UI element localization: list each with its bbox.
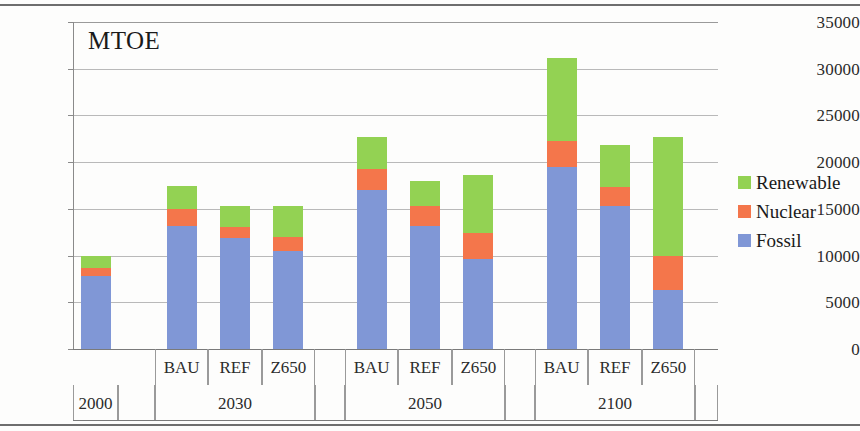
bar-segment-fossil	[600, 206, 630, 349]
bar-segment-fossil	[357, 190, 387, 349]
bar-segment-fossil	[547, 167, 577, 349]
plot-unit-title: MTOE	[88, 28, 160, 54]
bar-segment-fossil	[653, 290, 683, 349]
chart-legend: RenewableNuclearFossil	[738, 168, 840, 255]
category-year-2030: 2030	[155, 385, 315, 421]
bar-segment-renewable	[273, 206, 303, 237]
category-year-spacer	[695, 385, 718, 421]
bar-segment-fossil	[167, 226, 197, 349]
bar-segment-nuclear	[410, 206, 440, 226]
bar-segment-nuclear	[220, 227, 250, 238]
bar-segment-renewable	[600, 145, 630, 187]
y-tick-label-25000: 25000	[798, 107, 860, 124]
bar-segment-nuclear	[167, 209, 197, 226]
legend-item-renewable: Renewable	[738, 168, 840, 197]
bar-segment-fossil	[410, 226, 440, 349]
bar-2100-BAU	[547, 58, 577, 349]
bar-segment-fossil	[463, 259, 493, 349]
bar-2100-Z650	[653, 137, 683, 349]
category-year-spacer	[505, 385, 535, 421]
legend-item-nuclear: Nuclear	[738, 197, 840, 226]
bar-segment-nuclear	[600, 187, 630, 206]
energy-mix-stacked-bar-chart: 35000300002500020000150001000050000 MTOE…	[0, 0, 860, 431]
y-axis-line	[73, 22, 74, 349]
category-table-bottom-border	[73, 420, 718, 421]
bar-segment-nuclear	[463, 233, 493, 259]
category-scenario-2030-REF: REF	[208, 349, 261, 385]
legend-label: Renewable	[756, 173, 840, 192]
category-scenario-2050-Z650: Z650	[452, 349, 505, 385]
bar-2050-Z650	[463, 175, 493, 349]
category-scenario-2030-BAU: BAU	[155, 349, 208, 385]
y-tick-label-5000: 5000	[798, 294, 860, 311]
bar-segment-nuclear	[653, 256, 683, 291]
bar-segment-fossil	[273, 251, 303, 349]
gridline-25000	[73, 115, 718, 116]
category-year-2050: 2050	[345, 385, 505, 421]
category-year-spacer	[118, 385, 155, 421]
category-scenario-2100-Z650: Z650	[642, 349, 695, 385]
bar-2050-BAU	[357, 137, 387, 349]
category-scenario-2100-BAU: BAU	[535, 349, 588, 385]
y-tick-label-30000: 30000	[798, 61, 860, 78]
category-table: 20002030BAUREFZ6502050BAUREFZ6502100BAUR…	[73, 349, 718, 421]
category-scenario-spacer	[118, 349, 155, 385]
category-scenario-2050-BAU: BAU	[345, 349, 398, 385]
legend-swatch-nuclear-icon	[738, 205, 751, 218]
legend-label: Nuclear	[756, 202, 816, 221]
bar-segment-renewable	[167, 186, 197, 208]
category-year-spacer	[315, 385, 345, 421]
legend-label: Fossil	[756, 231, 801, 250]
bar-segment-renewable	[463, 175, 493, 233]
category-scenario-2030-Z650: Z650	[262, 349, 315, 385]
bar-2000	[81, 256, 111, 349]
category-scenario-spacer	[315, 349, 345, 385]
bar-segment-fossil	[220, 238, 250, 349]
bar-segment-renewable	[357, 137, 387, 169]
gridline-35000	[73, 22, 718, 23]
category-year-2000: 2000	[73, 385, 118, 421]
legend-swatch-fossil-icon	[738, 234, 751, 247]
bar-segment-renewable	[653, 137, 683, 256]
category-scenario-spacer	[505, 349, 535, 385]
bar-2030-Z650	[273, 206, 303, 349]
bar-segment-renewable	[220, 206, 250, 227]
legend-swatch-renewable-icon	[738, 176, 751, 189]
category-year-2100: 2100	[535, 385, 695, 421]
category-scenario-blank	[73, 349, 118, 385]
bar-segment-fossil	[81, 276, 111, 349]
bar-segment-nuclear	[273, 237, 303, 251]
category-scenario-spacer	[695, 349, 718, 385]
bar-2100-REF	[600, 145, 630, 349]
bar-2030-REF	[220, 206, 250, 349]
bar-segment-nuclear	[81, 268, 111, 276]
bar-segment-nuclear	[357, 169, 387, 190]
bar-2050-REF	[410, 181, 440, 349]
y-tick-label-35000: 35000	[798, 14, 860, 31]
chart-plot-area: 35000300002500020000150001000050000 MTOE…	[0, 0, 860, 431]
bar-segment-renewable	[81, 256, 111, 268]
category-scenario-2100-REF: REF	[588, 349, 641, 385]
bar-2030-BAU	[167, 186, 197, 349]
legend-item-fossil: Fossil	[738, 226, 840, 255]
y-tick-label-0: 0	[798, 341, 860, 358]
bar-segment-renewable	[410, 181, 440, 206]
gridline-30000	[73, 69, 718, 70]
bar-segment-nuclear	[547, 141, 577, 167]
bar-segment-renewable	[547, 58, 577, 140]
category-scenario-2050-REF: REF	[398, 349, 451, 385]
